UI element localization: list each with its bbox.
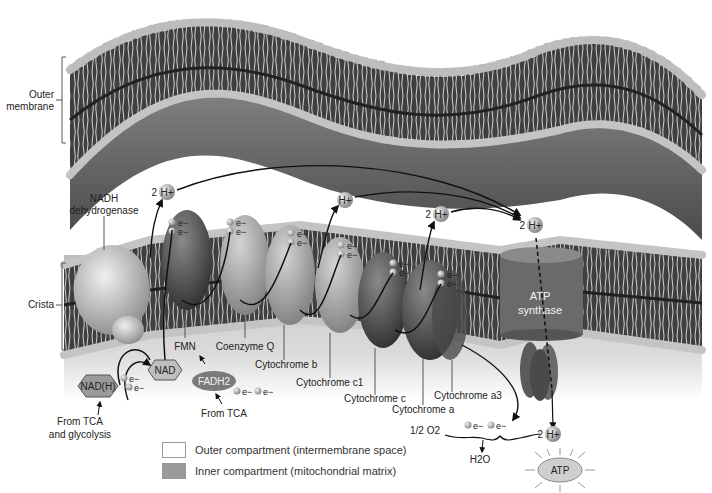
h2o-label: H2O — [470, 454, 491, 465]
proton-h5: 2 H+ — [537, 426, 561, 442]
atp-synthase-label-2: synthase — [518, 304, 562, 316]
outer-membrane — [70, 22, 702, 240]
svg-text:e−: e− — [242, 387, 252, 397]
legend-label-inner: Inner compartment (mitochondrial matrix) — [195, 465, 396, 477]
outer-membrane-label: Outer — [29, 89, 55, 100]
svg-text:e−: e− — [399, 268, 409, 278]
proton-h2: H+ — [337, 192, 353, 208]
svg-text:e−: e− — [263, 387, 273, 397]
cytochrome-a-label: Cytochrome a — [392, 404, 455, 415]
svg-text:H+: H+ — [546, 429, 559, 440]
nad-hexagon: NAD — [148, 360, 182, 380]
svg-text:e−: e− — [496, 421, 506, 431]
nadh-dehydrogenase-label: NADH — [90, 193, 118, 204]
from-tca-glycolysis-label-2: and glycolysis — [49, 429, 111, 440]
cytochrome-c-label: Cytochrome c — [344, 393, 406, 404]
from-tca-glycolysis-label: From TCA — [57, 416, 103, 427]
oxygen-electrons: e− e− — [465, 421, 507, 431]
svg-text:FADH2: FADH2 — [198, 376, 231, 387]
half-o2-label: 1/2 O2 — [410, 425, 440, 436]
crista-label: Crista — [28, 299, 55, 310]
proton-h1: 2 H+ — [151, 184, 175, 200]
svg-text:NAD: NAD — [154, 365, 175, 376]
svg-text:H+: H+ — [528, 220, 541, 231]
atp-synthase-label: ATP — [530, 290, 551, 302]
svg-text:e−: e− — [297, 238, 307, 248]
svg-text:e−: e− — [236, 227, 246, 237]
legend-swatch-outer — [162, 442, 186, 458]
legend-inner-compartment: Inner compartment (mitochondrial matrix) — [162, 463, 396, 479]
svg-text:e−: e− — [473, 421, 483, 431]
svg-text:2: 2 — [425, 209, 431, 220]
svg-text:e−: e− — [134, 383, 144, 393]
atp-label: ATP — [551, 465, 570, 476]
nadh-dehydrogenase-label-2: dehydrogenase — [70, 205, 139, 216]
fadh2-ellipse: FADH2 — [192, 371, 236, 391]
legend-swatch-inner — [162, 463, 186, 479]
svg-text:H+: H+ — [160, 187, 173, 198]
etc-diagram: Outer membrane Crista NADH dehydrogenase… — [0, 0, 712, 493]
proton-h4: 2 H+ — [519, 217, 543, 233]
cytochrome-a3-label: Cytochrome a3 — [434, 390, 502, 401]
legend-label-outer: Outer compartment (intermembrane space) — [195, 444, 407, 456]
cytochrome-b-label: Cytochrome b — [255, 359, 318, 370]
nadh-hexagon: NAD(H) — [78, 375, 118, 397]
outer-membrane-bracket — [62, 57, 66, 143]
svg-text:NAD(H): NAD(H) — [81, 381, 116, 392]
svg-text:2: 2 — [151, 187, 157, 198]
svg-text:e−: e− — [347, 250, 357, 260]
coenzyme-q-label: Coenzyme Q — [216, 341, 275, 352]
fmn-label: FMN — [174, 341, 196, 352]
svg-text:H+: H+ — [338, 195, 351, 206]
svg-text:2: 2 — [519, 220, 525, 231]
proton-h3: 2 H+ — [425, 206, 449, 222]
water-formation-brace — [445, 434, 540, 440]
from-tca-label: From TCA — [201, 408, 247, 419]
legend-outer-compartment: Outer compartment (intermembrane space) — [162, 442, 407, 458]
cytochrome-c1-label: Cytochrome c1 — [296, 377, 364, 388]
svg-text:e−: e− — [447, 279, 457, 289]
svg-text:H+: H+ — [434, 209, 447, 220]
outer-membrane-label-2: membrane — [6, 101, 54, 112]
svg-text:e−: e− — [178, 227, 188, 237]
